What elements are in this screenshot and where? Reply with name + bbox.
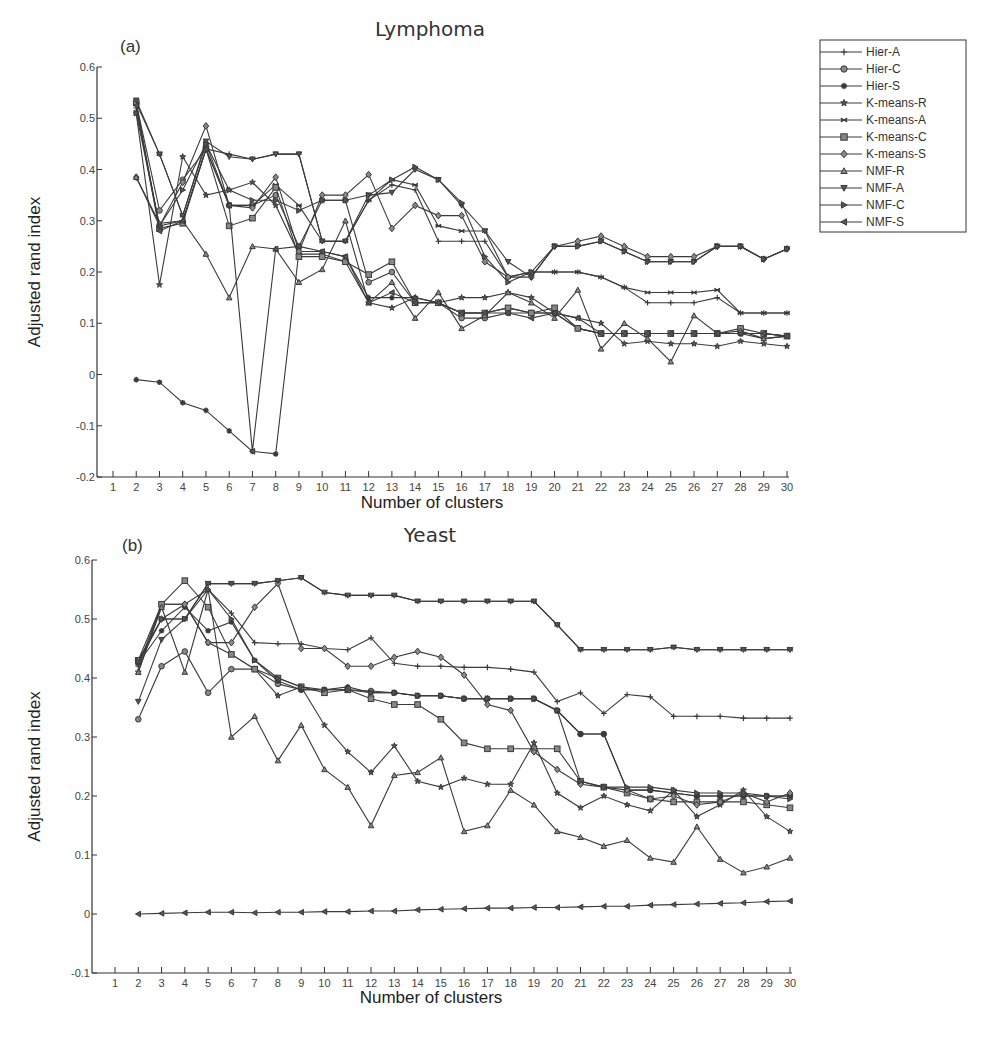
x-tick-label: 29 <box>758 481 770 493</box>
panel-tag: (b) <box>122 536 143 555</box>
x-tick-label: 7 <box>252 977 258 989</box>
y-tick-label: 0.3 <box>80 215 95 227</box>
x-tick-label: 20 <box>551 977 563 989</box>
x-tick-label: 22 <box>598 977 610 989</box>
y-tick-label: -0.1 <box>71 967 90 979</box>
x-tick-label: 24 <box>644 977 656 989</box>
x-tick-label: 27 <box>714 977 726 989</box>
y-tick-label: 0.1 <box>80 317 95 329</box>
y-tick-label: 0.5 <box>80 112 95 124</box>
x-tick-label: 24 <box>641 481 653 493</box>
series-nmf-r <box>135 587 792 875</box>
x-tick-label: 26 <box>688 481 700 493</box>
x-tick-label: 2 <box>135 977 141 989</box>
legend-label: NMF-A <box>866 181 904 195</box>
series-nmf-c <box>136 587 793 802</box>
y-tick-label: 0.4 <box>75 672 90 684</box>
x-tick-label: 1 <box>112 977 118 989</box>
x-tick-label: 1 <box>110 481 116 493</box>
x-tick-label: 6 <box>228 977 234 989</box>
y-tick-label: 0.6 <box>80 61 95 73</box>
y-tick-label: 0.3 <box>75 731 90 743</box>
x-tick-label: 29 <box>761 977 773 989</box>
x-tick-label: 25 <box>667 977 679 989</box>
x-tick-label: 13 <box>386 481 398 493</box>
x-tick-label: 27 <box>711 481 723 493</box>
y-tick-label: 0.5 <box>75 613 90 625</box>
legend-label: NMF-C <box>866 198 905 212</box>
x-tick-label: 9 <box>298 977 304 989</box>
x-tick-label: 5 <box>203 481 209 493</box>
x-tick-label: 30 <box>784 977 796 989</box>
x-tick-label: 19 <box>525 481 537 493</box>
legend: Hier-AHier-CHier-SK-means-RK-means-AK-me… <box>820 40 966 232</box>
x-tick-label: 22 <box>595 481 607 493</box>
legend-label: K-means-C <box>866 130 927 144</box>
series-hier-s <box>133 249 789 457</box>
x-tick-label: 7 <box>249 481 255 493</box>
y-tick-label: 0.2 <box>80 266 95 278</box>
x-tick-label: 28 <box>734 481 746 493</box>
legend-label: K-means-R <box>866 96 927 110</box>
y-tick-label: 0.4 <box>80 164 95 176</box>
x-tick-label: 4 <box>180 481 186 493</box>
x-tick-label: 16 <box>455 481 467 493</box>
panel-b-yeast: -0.100.10.20.30.40.50.612345678910111213… <box>25 523 796 1007</box>
series-hier-a <box>133 105 789 316</box>
x-tick-label: 21 <box>574 977 586 989</box>
x-tick-label: 8 <box>273 481 279 493</box>
x-tick-label: 3 <box>158 977 164 989</box>
x-tick-label: 12 <box>363 481 375 493</box>
x-tick-label: 14 <box>409 481 421 493</box>
x-tick-label: 23 <box>618 481 630 493</box>
x-tick-label: 18 <box>502 481 514 493</box>
x-tick-label: 3 <box>156 481 162 493</box>
x-tick-label: 18 <box>505 977 517 989</box>
x-tick-label: 11 <box>342 977 353 989</box>
x-tick-label: 28 <box>737 977 749 989</box>
x-tick-label: 15 <box>432 481 444 493</box>
series-nmf-c <box>134 110 790 285</box>
x-tick-label: 11 <box>340 481 351 493</box>
legend-label: K-means-A <box>866 113 926 127</box>
panel-tag: (a) <box>120 37 141 56</box>
x-tick-label: 10 <box>316 481 328 493</box>
y-tick-label: 0.1 <box>75 849 90 861</box>
y-axis-title: Adjusted rand index <box>25 691 44 842</box>
x-tick-label: 6 <box>226 481 232 493</box>
x-tick-label: 23 <box>621 977 633 989</box>
legend-label: Hier-S <box>866 79 900 93</box>
x-tick-label: 30 <box>781 481 793 493</box>
legend-label: NMF-S <box>866 215 904 229</box>
y-axis-title: Adjusted rand index <box>25 196 44 347</box>
x-tick-label: 25 <box>665 481 677 493</box>
y-tick-label: 0 <box>89 369 95 381</box>
axes: -0.2-0.100.10.20.30.40.50.61234567891011… <box>76 61 793 493</box>
series-nmf-a <box>135 575 792 704</box>
y-tick-label: -0.1 <box>76 420 95 432</box>
legend-label: NMF-R <box>866 164 905 178</box>
panel-title: Yeast <box>403 523 457 547</box>
panel-a-lymphoma: -0.2-0.100.10.20.30.40.50.61234567891011… <box>25 17 793 512</box>
x-tick-label: 21 <box>572 481 584 493</box>
legend-label: K-means-S <box>866 147 926 161</box>
series-nmf-s <box>135 898 792 917</box>
y-tick-label: 0.6 <box>75 554 90 566</box>
y-tick-label: -0.2 <box>76 471 95 483</box>
x-tick-label: 2 <box>133 481 139 493</box>
x-tick-label: 17 <box>479 481 491 493</box>
x-tick-label: 20 <box>548 481 560 493</box>
x-tick-label: 4 <box>182 977 188 989</box>
x-axis-title: Number of clusters <box>360 988 503 1007</box>
x-tick-label: 26 <box>691 977 703 989</box>
x-tick-label: 5 <box>205 977 211 989</box>
legend-label: Hier-C <box>866 62 901 76</box>
x-tick-label: 9 <box>296 481 302 493</box>
chart-canvas: -0.2-0.100.10.20.30.40.50.61234567891011… <box>0 0 991 1049</box>
x-tick-label: 19 <box>528 977 540 989</box>
y-tick-label: 0.2 <box>75 790 90 802</box>
x-tick-label: 8 <box>275 977 281 989</box>
x-axis-title: Number of clusters <box>361 493 504 512</box>
legend-label: Hier-A <box>866 45 900 59</box>
x-tick-label: 10 <box>318 977 330 989</box>
